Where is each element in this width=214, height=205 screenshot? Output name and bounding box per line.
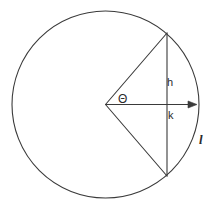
geometry-canvas [0, 0, 214, 205]
sector-upper-radius [106, 33, 168, 105]
angle-theta-label: Θ [118, 93, 127, 105]
sector-lower-radius [106, 105, 168, 177]
radius-arrow-head [188, 101, 197, 108]
height-h-label: h [167, 77, 173, 88]
arc-length-l-label: l [199, 133, 203, 146]
geometry-diagram: Θ h k l [0, 0, 214, 205]
apothem-k-label: k [168, 110, 174, 121]
